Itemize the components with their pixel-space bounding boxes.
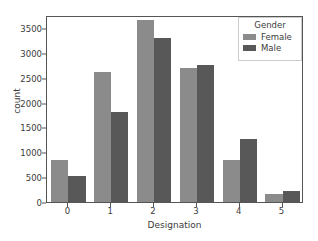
legend-item-female[interactable]: Female [243, 33, 297, 42]
x-tick-mark [239, 203, 240, 207]
x-tick-label: 4 [224, 207, 254, 216]
y-tick-label: 1000 [0, 149, 42, 158]
y-tick-label: 3000 [0, 50, 42, 59]
bar-male-0 [68, 176, 85, 202]
x-tick-mark [110, 203, 111, 207]
legend-label: Female [261, 33, 292, 42]
x-tick-label: 1 [95, 207, 125, 216]
legend-title: Gender [243, 21, 297, 30]
x-tick-label: 3 [181, 207, 211, 216]
x-tick-mark [196, 203, 197, 207]
y-tick-label: 500 [0, 174, 42, 183]
bar-chart-figure: 0500100015002000250030003500 count 01234… [0, 0, 318, 241]
y-tick-label: 3500 [0, 25, 42, 34]
x-tick-mark [153, 203, 154, 207]
bar-female-4 [223, 160, 240, 202]
bar-female-3 [180, 68, 197, 202]
y-tick-label: 0 [0, 199, 42, 208]
bar-female-0 [51, 160, 68, 202]
legend-swatch-female-icon [243, 34, 256, 40]
x-tick-mark [67, 203, 68, 207]
bar-male-2 [154, 38, 171, 202]
legend-swatch-male-icon [243, 45, 256, 51]
x-tick-mark [282, 203, 283, 207]
x-tick-label: 0 [52, 207, 82, 216]
legend-item-male[interactable]: Male [243, 44, 297, 53]
bar-female-2 [137, 20, 154, 202]
x-axis-label: Designation [46, 220, 303, 230]
y-axis-label: count [12, 71, 22, 131]
bar-female-1 [94, 72, 111, 202]
legend: Gender FemaleMale [238, 17, 302, 61]
bar-female-5 [265, 194, 282, 202]
bar-male-4 [240, 139, 257, 202]
bar-male-3 [197, 65, 214, 202]
bar-male-1 [111, 112, 128, 202]
bar-male-5 [283, 191, 300, 202]
legend-entries: FemaleMale [243, 33, 297, 53]
x-tick-label: 2 [138, 207, 168, 216]
x-tick-label: 5 [267, 207, 297, 216]
legend-label: Male [261, 44, 281, 53]
